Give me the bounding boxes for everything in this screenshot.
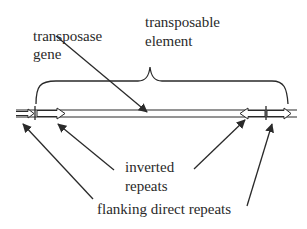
label-flanking-direct-repeats-text: flanking direct repeats [97,201,231,217]
inverted-right-pointer [194,120,245,169]
label-inverted-repeats-line1: inverted [125,159,174,175]
inverted-left-pointer [58,124,114,170]
label-inverted-repeats: inverted repeats [125,159,174,194]
label-transposable-element-line1: transposable [145,14,220,30]
transposable-element-brace [36,67,288,104]
flanking-right-pointer [247,124,272,206]
right-inverted-repeat [240,106,266,120]
label-flanking-direct-repeats: flanking direct repeats [97,201,231,217]
label-transposase-gene-line2: gene [33,46,102,62]
label-transposable-element-line2: element [145,33,220,49]
label-inverted-repeats-line2: repeats [125,178,174,194]
label-transposase-gene: transposase gene [33,28,102,62]
left-flanking-direct-repeat [16,106,35,120]
flanking-left-pointer [23,124,93,199]
label-transposable-element: transposable element [145,14,220,49]
label-transposase-gene-line1: transposase [33,28,102,44]
